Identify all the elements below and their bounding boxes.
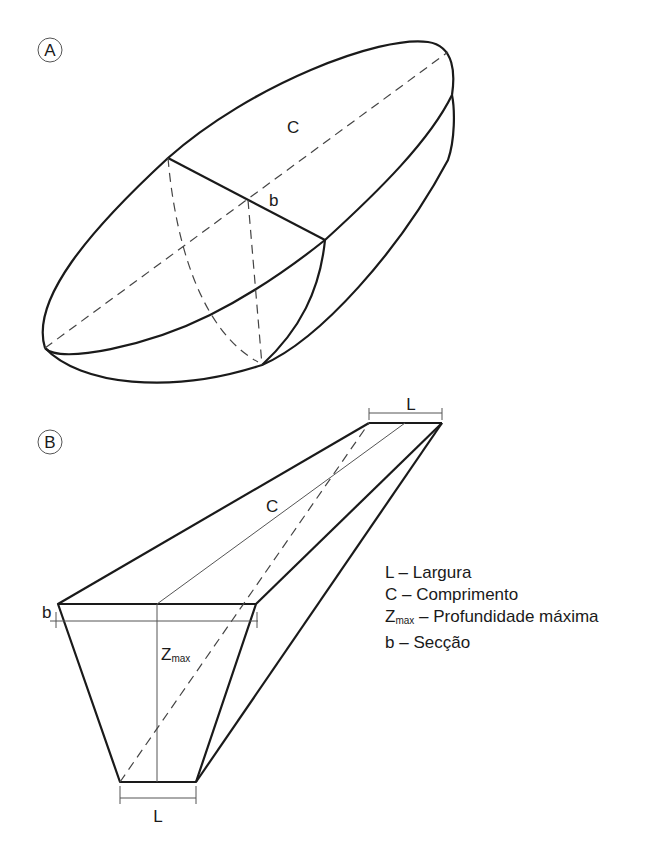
figure-b-label-c: C (266, 497, 278, 516)
legend-item-profundidade: Zmax – Profundidade máxima (385, 606, 599, 632)
figure-b-label-l-bottom: L (153, 807, 162, 826)
figure-b-thin-lines (50, 408, 442, 804)
figure-a-hidden-lines (45, 52, 448, 365)
legend: L – Largura C – Comprimento Zmax – Profu… (385, 562, 599, 654)
figure-b-marker: B (38, 430, 62, 454)
figure-b-label-b: b (42, 603, 51, 622)
figure-a-ellipsoid (43, 41, 454, 382)
svg-text:B: B (44, 433, 55, 452)
diagram-canvas: A C b B (0, 0, 662, 851)
legend-item-seccao: b – Secção (385, 632, 599, 654)
figure-b-label-zmax: Zmax (161, 645, 190, 664)
legend-item-comprimento: C – Comprimento (385, 584, 599, 606)
figure-a-marker: A (38, 38, 62, 62)
figure-b-label-l-top: L (406, 395, 415, 414)
legend-item-largura: L – Largura (385, 562, 599, 584)
figure-a-label-c: C (287, 118, 299, 137)
figure-a-label-b: b (269, 191, 278, 210)
svg-text:A: A (44, 41, 56, 60)
